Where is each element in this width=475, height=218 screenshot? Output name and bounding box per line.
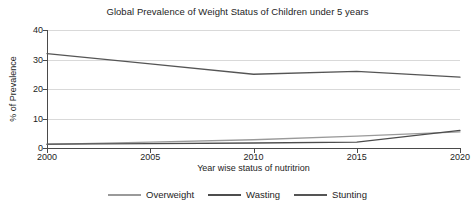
x-tick-label: 2005 bbox=[140, 152, 160, 162]
plot-area: 010203040 20002005201020152020 bbox=[47, 30, 460, 148]
x-tick-label: 2000 bbox=[37, 152, 57, 162]
y-tick-label: 30 bbox=[33, 55, 43, 65]
legend-item-overweight[interactable]: Overweight bbox=[108, 189, 194, 200]
legend-swatch-icon bbox=[208, 194, 241, 196]
legend-label: Stunting bbox=[332, 189, 367, 200]
series-line-wasting bbox=[47, 130, 460, 144]
chart-legend: OverweightWastingStunting bbox=[0, 189, 475, 200]
y-tick-label: 40 bbox=[33, 25, 43, 35]
y-tick-label: 10 bbox=[33, 114, 43, 124]
chart-title: Global Prevalence of Weight Status of Ch… bbox=[0, 6, 475, 17]
x-tick-label: 2015 bbox=[347, 152, 367, 162]
x-axis-title: Year wise status of nutritrion bbox=[47, 163, 460, 173]
legend-swatch-icon bbox=[108, 194, 141, 196]
legend-item-stunting[interactable]: Stunting bbox=[294, 189, 367, 200]
y-tick-label: 20 bbox=[33, 84, 43, 94]
chart-figure: Global Prevalence of Weight Status of Ch… bbox=[0, 0, 475, 218]
series-line-stunting bbox=[47, 54, 460, 78]
legend-item-wasting[interactable]: Wasting bbox=[208, 189, 280, 200]
series-lines bbox=[47, 30, 460, 148]
x-axis-line bbox=[47, 148, 460, 149]
y-axis-title-label: % of Prevalence bbox=[8, 56, 18, 122]
x-tick-label: 2020 bbox=[450, 152, 470, 162]
legend-label: Overweight bbox=[146, 189, 194, 200]
y-axis-title: % of Prevalence bbox=[6, 30, 20, 148]
legend-label: Wasting bbox=[246, 189, 280, 200]
x-tick-label: 2010 bbox=[243, 152, 263, 162]
legend-swatch-icon bbox=[294, 194, 327, 196]
